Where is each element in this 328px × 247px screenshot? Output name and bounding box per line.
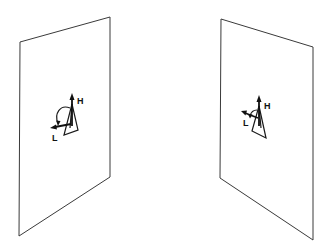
- left-plane: [19, 17, 110, 236]
- h-arrowhead-icon: [257, 95, 262, 102]
- right-vector-marker: H L: [241, 95, 271, 138]
- h-label: H: [77, 96, 84, 106]
- l-vector: [55, 124, 71, 127]
- diagram-canvas: H L H L: [0, 0, 328, 247]
- left-panel: H L: [19, 17, 110, 236]
- h-label: H: [264, 101, 271, 111]
- left-vector-marker: H L: [50, 93, 84, 143]
- right-panel: H L: [220, 19, 313, 240]
- l-label: L: [52, 133, 58, 143]
- l-arrowhead-icon: [50, 125, 57, 130]
- arc-arrowhead-icon: [56, 121, 61, 127]
- l-label: L: [243, 118, 249, 128]
- right-plane: [220, 19, 313, 240]
- h-arrowhead-icon: [70, 93, 75, 100]
- l-arrowhead-icon: [241, 111, 247, 116]
